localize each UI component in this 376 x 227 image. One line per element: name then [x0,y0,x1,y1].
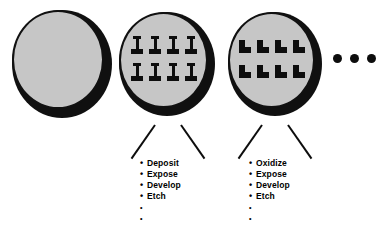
bullet-icon: • [140,202,147,213]
bullet-icon: • [249,169,256,180]
ibeam-stem [172,36,175,49]
list-item: • Deposit [140,158,181,169]
lstep-foot [298,47,305,53]
die-shape-ibeam [149,36,161,54]
bullet-icon: • [249,158,256,169]
die-shape-lstep [239,40,251,53]
lstep-foot [262,47,269,53]
list-item: • Expose [140,169,181,180]
list-item: • Expose [249,169,290,180]
ibeam-stem [136,36,139,49]
lstep-foot [298,72,305,78]
list-item-label: Expose [256,169,287,180]
list-item-label: Etch [147,191,166,202]
ibeam-stem [154,63,157,76]
list-item-empty: • [249,213,290,224]
list-item: • Oxidize [249,158,290,169]
ibeam-stem [136,63,139,76]
list-item-label: Develop [147,180,181,191]
lstep-foot [244,72,251,78]
die-shape-lstep [293,65,305,78]
lstep-foot [280,72,287,78]
list-item-empty: • [140,202,181,213]
bullet-icon: • [140,169,147,180]
list-item-empty: • [140,213,181,224]
die-shape-ibeam [131,63,143,81]
bullet-icon: • [140,191,147,202]
lstep-foot [244,47,251,53]
process-list-oxidize: • Oxidize • Expose • Develop • Etch • • [249,158,290,224]
list-item-label: Oxidize [256,158,287,169]
ibeam-stem [190,63,193,76]
bullet-icon: • [140,213,147,224]
list-item-label: Expose [147,169,178,180]
ellipsis-dot [350,54,359,63]
ibeam-foot [167,49,179,54]
list-item-label: Deposit [147,158,179,169]
die-shape-ibeam [185,63,197,81]
list-item: • Etch [140,191,181,202]
die-shape-lstep [257,65,269,78]
lstep-foot [280,47,287,53]
ibeam-foot [185,49,197,54]
bullet-icon: • [249,180,256,191]
die-shape-lstep [275,65,287,78]
die-shape-ibeam [149,63,161,81]
list-item-label: Develop [256,180,290,191]
ibeam-foot [149,49,161,54]
ibeam-foot [131,76,143,81]
ibeam-foot [149,76,161,81]
bullet-icon: • [249,202,256,213]
list-item-empty: • [249,202,290,213]
leader-line-right-2 [287,124,312,159]
die-shape-lstep [275,40,287,53]
bullet-icon: • [249,213,256,224]
continuation-ellipsis-icon [333,54,376,63]
ibeam-foot [185,76,197,81]
process-list-deposit: • Deposit • Expose • Develop • Etch • • [140,158,181,224]
list-item: • Etch [249,191,290,202]
leader-line-left-1 [131,124,156,159]
bullet-icon: • [140,158,147,169]
ibeam-foot [131,49,143,54]
ibeam-stem [172,63,175,76]
die-shape-ibeam [167,36,179,54]
wafer-blank [12,10,112,118]
ellipsis-dot [367,54,376,63]
die-shape-ibeam [131,36,143,54]
list-item: • Develop [249,180,290,191]
ellipsis-dot [333,54,342,63]
leader-line-right-1 [180,124,205,159]
bullet-icon: • [140,180,147,191]
ibeam-foot [167,76,179,81]
ibeam-stem [190,36,193,49]
list-item-label: Etch [256,191,275,202]
die-shape-lstep [257,40,269,53]
list-item: • Develop [140,180,181,191]
wafer-patterned-ibeam [119,12,215,116]
die-shape-lstep [293,40,305,53]
wafer-face [12,10,104,109]
ibeam-stem [154,36,157,49]
die-shape-ibeam [185,36,197,54]
bullet-icon: • [249,191,256,202]
wafer-patterned-lstep [228,12,322,116]
leader-line-left-2 [238,124,263,159]
wafer-pattern-grid [239,40,305,78]
die-shape-ibeam [167,63,179,81]
lstep-foot [262,72,269,78]
wafer-pattern-grid [131,36,197,81]
die-shape-lstep [239,65,251,78]
